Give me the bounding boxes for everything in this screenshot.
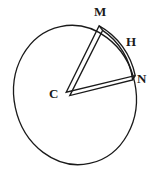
circle-sector-drawing — [0, 0, 155, 172]
point-label-n: N — [137, 72, 146, 85]
sector-inner-outline — [70, 30, 133, 95]
point-label-m: M — [94, 5, 106, 18]
point-label-h: H — [126, 35, 136, 48]
point-label-c: C — [49, 87, 58, 100]
geometry-figure: M H N C — [0, 0, 155, 172]
